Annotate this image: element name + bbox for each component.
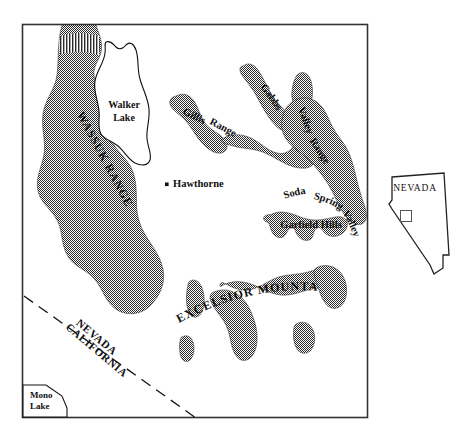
settlement-hawthorne: Hawthorne: [165, 178, 224, 189]
map-figure: WASSUK RANGE Walker Lake Gillis Range: [0, 0, 472, 437]
label-mono-lake-line1: Mono: [30, 390, 53, 400]
nevada-state-inset: NEVADA: [389, 173, 449, 274]
excelsior-southwest-islet: [180, 336, 195, 362]
map-canvas: WASSUK RANGE Walker Lake Gillis Range: [0, 0, 472, 437]
label-hawthorne: Hawthorne: [173, 178, 224, 189]
label-mono-lake-line2: Lake: [30, 401, 50, 411]
label-garfield-hills: Garfield Hills: [280, 219, 342, 230]
label-walker-lake-line1: Walker: [108, 99, 140, 110]
label-nevada-inset: NEVADA: [393, 183, 437, 193]
wassuk-hatch-cap: [59, 33, 100, 55]
label-walker-lake-line2: Lake: [113, 112, 135, 123]
hawthorne-point-marker: [165, 183, 169, 187]
